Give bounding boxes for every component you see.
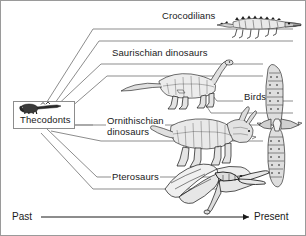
node-label-saurischian-dinosaurs: Saurischian dinosaurs xyxy=(111,47,209,58)
node-label-pterosaurs: Pterosaurs xyxy=(111,171,160,182)
pterosaur-illustration xyxy=(159,159,271,215)
axis-label-past: Past xyxy=(11,211,33,222)
node-label-crocodilians: Crocodilians xyxy=(161,10,216,21)
axis-label-present: Present xyxy=(253,211,289,222)
sauropod-illustration xyxy=(121,59,241,111)
crocodile-illustration xyxy=(215,9,303,41)
cladogram-figure: Thecodonts Crocodilians Sauri xyxy=(0,0,306,236)
node-label-thecodonts: Thecodonts xyxy=(19,114,72,125)
